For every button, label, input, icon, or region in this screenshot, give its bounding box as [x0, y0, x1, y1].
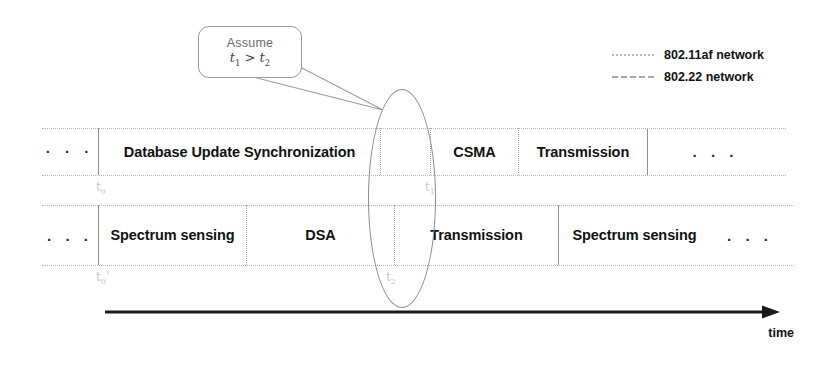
tick-t2-sub: 2 — [391, 277, 396, 286]
row-top-leading-dots: · · · — [42, 128, 98, 175]
tick-label-t1: t1 — [425, 180, 435, 196]
slot-gap-top — [380, 128, 430, 175]
callout-inequality: t1 > t2 — [230, 50, 270, 68]
callout-t2-sub: 2 — [265, 58, 270, 68]
rail-top-row-lower — [42, 175, 786, 176]
legend-label-802-22: 802.22 network — [664, 70, 754, 84]
legend-swatch-dotted-icon — [612, 54, 654, 56]
time-axis-arrowhead-icon — [762, 306, 780, 319]
slot-database-update-sync[interactable]: Database Update Synchronization — [98, 128, 380, 175]
tick-label-t0-prime: t0' — [96, 270, 109, 286]
callout-assume-label: Assume — [227, 36, 273, 50]
legend-item-802-22: 802.22 network — [612, 66, 764, 88]
timeline-row-802-11af: · · · Database Update Synchronization CS… — [42, 128, 785, 175]
legend-item-802-11af: 802.11af network — [612, 44, 764, 66]
slot-transmission-bottom[interactable]: Transmission — [394, 205, 558, 265]
rail-top-row-upper — [42, 128, 786, 129]
slot-dsa[interactable]: DSA — [246, 205, 394, 265]
diagram-canvas: · · · Database Update Synchronization CS… — [0, 0, 826, 366]
row-top-trailing-dots: . . . — [647, 128, 783, 175]
tick-t0p-prime: ' — [106, 270, 109, 284]
rail-bottom-row-lower — [42, 265, 794, 266]
timeline-row-802-22: . . . Spectrum sensing DSA Transmission … — [42, 205, 793, 265]
row-bottom-leading-dots: . . . — [42, 205, 98, 265]
tick-t0-sub: 0 — [101, 187, 106, 196]
tick-t1-sub: 1 — [430, 187, 435, 196]
tick-label-t0: t0 — [96, 180, 106, 196]
assume-callout: Assume t1 > t2 — [198, 26, 302, 78]
callout-operator: > — [240, 50, 259, 65]
rail-bottom-row-upper — [42, 205, 794, 206]
highlight-ellipse — [368, 89, 436, 308]
slot-transmission-top[interactable]: Transmission — [518, 128, 647, 175]
slot-csma[interactable]: CSMA — [430, 128, 518, 175]
legend: 802.11af network 802.22 network — [612, 44, 764, 88]
legend-swatch-dashed-icon — [612, 76, 654, 78]
slot-spectrum-sensing-1[interactable]: Spectrum sensing — [98, 205, 246, 265]
time-axis-label: time — [768, 326, 794, 340]
legend-label-802-11af: 802.11af network — [664, 48, 764, 62]
slot-spectrum-sensing-2[interactable]: Spectrum sensing — [558, 205, 710, 265]
tick-label-t2: t2 — [386, 270, 396, 286]
row-bottom-trailing-dots: . . . — [710, 205, 790, 265]
